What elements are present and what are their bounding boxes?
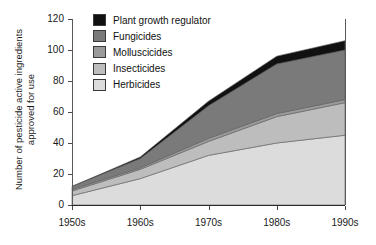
y-tick-mark — [68, 174, 72, 175]
legend-swatch — [93, 30, 106, 42]
y-tick-mark — [68, 50, 72, 51]
x-tick-mark — [72, 206, 73, 210]
legend-swatch — [93, 79, 106, 91]
y-tick-label: 40 — [38, 137, 64, 148]
y-tick-label: 20 — [38, 168, 64, 179]
y-tick-mark — [68, 81, 72, 82]
legend-item: Plant growth regulator — [93, 12, 211, 28]
legend-label: Fungicides — [113, 31, 161, 42]
x-tick-label: 1950s — [47, 217, 97, 228]
x-tick-label: 1970s — [184, 217, 234, 228]
y-tick-label: 0 — [38, 199, 64, 210]
legend-label: Plant growth regulator — [113, 15, 211, 26]
legend-label: Insecticides — [113, 63, 165, 74]
legend-item: Insecticides — [93, 61, 211, 77]
y-tick-mark — [68, 112, 72, 113]
legend-swatch — [93, 14, 106, 26]
legend-label: Molluscicides — [113, 47, 172, 58]
legend-swatch — [93, 63, 106, 75]
x-tick-label: 1960s — [115, 217, 165, 228]
legend-swatch — [93, 46, 106, 58]
x-tick-mark — [209, 206, 210, 210]
legend: Plant growth regulatorFungicidesMollusci… — [93, 12, 211, 93]
y-tick-label: 60 — [38, 106, 64, 117]
y-tick-label: 80 — [38, 75, 64, 86]
x-tick-mark — [140, 206, 141, 210]
x-tick-mark — [277, 206, 278, 210]
x-tick-mark — [345, 206, 346, 210]
x-tick-label: 1990s — [320, 217, 370, 228]
y-tick-label: 100 — [38, 44, 64, 55]
right-axis-line — [345, 19, 346, 205]
legend-item: Herbicides — [93, 77, 211, 93]
legend-label: Herbicides — [113, 79, 160, 90]
legend-item: Fungicides — [93, 28, 211, 44]
chart-container: Number of pesticide active ingredients a… — [0, 0, 376, 245]
legend-item: Molluscicides — [93, 44, 211, 60]
y-axis-line — [72, 19, 73, 205]
y-tick-mark — [68, 19, 72, 20]
y-tick-mark — [68, 143, 72, 144]
x-tick-label: 1980s — [252, 217, 302, 228]
y-tick-label: 120 — [38, 13, 64, 24]
